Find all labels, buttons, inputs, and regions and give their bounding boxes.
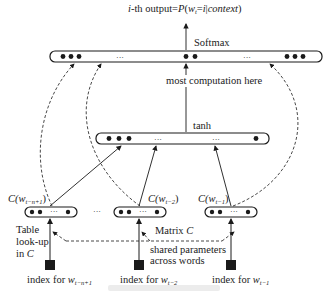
index-square-1	[45, 260, 55, 270]
embedding-label-2: C(wt−2)	[148, 193, 178, 208]
softmax-label: Softmax	[194, 37, 230, 49]
embedding-label-3: C(wt−1)	[198, 193, 228, 208]
tanh-ellipsis-right: ···	[212, 134, 220, 146]
embedding-ellipsis-2: ···	[139, 206, 147, 218]
shared-params-line2: across words	[150, 255, 205, 267]
matrix-c-label: Matrix C	[155, 225, 193, 237]
output-label: i-th output=P(wt=i|context)	[128, 3, 242, 18]
index-label-1: index for wt−n+1	[27, 274, 92, 289]
softmax-ellipsis-right: ···	[243, 52, 251, 64]
index-square-2	[134, 260, 144, 270]
figure-caption-faded	[108, 285, 220, 291]
between-embeddings-ellipsis: ···	[93, 206, 101, 218]
embedding-ellipsis-1: ···	[50, 206, 58, 218]
table-lookup-line1: Table	[16, 224, 39, 236]
table-lookup-line3: in C	[16, 248, 34, 260]
table-lookup-line2: look-up	[16, 236, 49, 248]
embedding-ellipsis-3: ···	[230, 206, 238, 218]
embedding-label-1: C(wt−n+1)	[8, 193, 46, 208]
softmax-ellipsis-left: ···	[116, 52, 124, 64]
tanh-ellipsis-left: ···	[154, 134, 162, 146]
tanh-layer	[96, 133, 269, 144]
computation-note: most computation here	[166, 75, 262, 87]
softmax-layer	[50, 51, 322, 62]
index-label-3: index for wt−1	[212, 274, 269, 289]
tanh-label: tanh	[193, 120, 211, 132]
index-square-3	[226, 260, 236, 270]
